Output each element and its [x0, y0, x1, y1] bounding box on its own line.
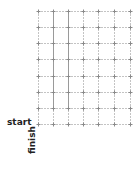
grid-lines: [38, 11, 131, 125]
maze-grid: [0, 0, 140, 169]
finish-label: finish: [28, 126, 37, 154]
